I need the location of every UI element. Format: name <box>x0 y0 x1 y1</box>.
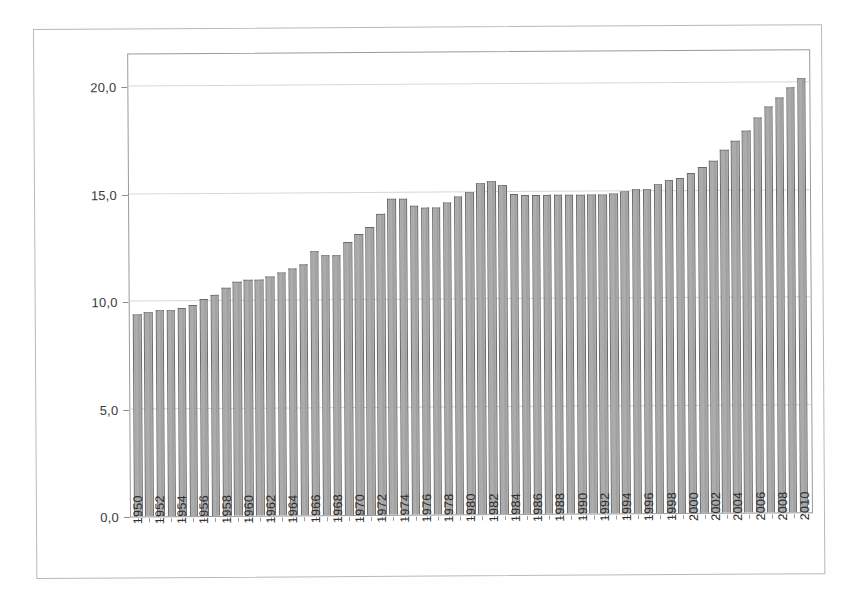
bar[interactable] <box>133 314 143 516</box>
x-axis-slot: 1984 <box>510 516 522 588</box>
x-axis-slot: 1980 <box>466 516 478 588</box>
y-axis-tick-label: 15,0 <box>91 188 117 203</box>
bar[interactable] <box>343 242 353 515</box>
plot-area <box>127 49 813 517</box>
bar[interactable] <box>731 141 742 513</box>
x-axis-tick-mark <box>727 515 728 519</box>
bar[interactable] <box>698 167 709 513</box>
bar[interactable] <box>632 189 642 514</box>
x-axis-slot: 2004 <box>733 515 745 587</box>
x-axis-tick-mark <box>327 517 328 521</box>
x-axis-tick-mark <box>371 517 372 521</box>
bar[interactable] <box>465 192 475 514</box>
bar[interactable] <box>144 312 154 516</box>
bar[interactable] <box>377 214 387 515</box>
bar[interactable] <box>654 184 664 513</box>
x-axis-tick-mark <box>149 518 150 522</box>
x-axis-slot: 2010 <box>799 514 811 586</box>
bar[interactable] <box>487 181 497 514</box>
x-axis-slot: 1954 <box>176 518 188 590</box>
x-axis-slot: 1962 <box>265 518 277 590</box>
x-axis-tick-label: 2010 <box>798 520 812 553</box>
x-axis-tick-mark <box>349 517 350 521</box>
x-axis-tick-mark <box>505 516 506 520</box>
bar[interactable] <box>354 234 364 516</box>
x-axis-slot: 1958 <box>221 518 233 590</box>
bar[interactable] <box>532 195 542 514</box>
x-axis-slot: 2006 <box>755 515 767 587</box>
bar[interactable] <box>510 194 520 514</box>
bar[interactable] <box>609 193 619 513</box>
bar[interactable] <box>233 282 243 516</box>
bar[interactable] <box>676 178 686 513</box>
x-axis-tick-mark <box>282 517 283 521</box>
bar[interactable] <box>177 308 187 516</box>
x-axis-slot: 1970 <box>354 517 366 589</box>
x-axis-tick-mark <box>549 516 550 520</box>
x-axis-tick-mark <box>482 516 483 520</box>
x-axis-slot: 1988 <box>555 516 567 588</box>
bar[interactable] <box>277 273 287 516</box>
x-axis-tick-mark <box>616 515 617 519</box>
bar[interactable] <box>498 185 508 514</box>
bar[interactable] <box>521 195 531 514</box>
x-axis-tick-mark <box>794 514 795 518</box>
bar[interactable] <box>421 207 431 514</box>
x-axis-slot: 1986 <box>532 516 544 588</box>
x-axis-slot: 1976 <box>421 517 433 589</box>
bar[interactable] <box>565 195 575 514</box>
bar[interactable] <box>454 196 464 514</box>
bar[interactable] <box>244 279 254 515</box>
bar[interactable] <box>476 183 486 514</box>
bar[interactable] <box>321 255 331 515</box>
bar-slot <box>796 50 810 512</box>
bar[interactable] <box>155 310 165 516</box>
bar[interactable] <box>709 160 720 512</box>
bar[interactable] <box>443 203 453 515</box>
bar[interactable] <box>299 264 309 515</box>
x-axis-tick-mark <box>304 517 305 521</box>
x-axis-slot: 1952 <box>154 518 166 590</box>
bar[interactable] <box>266 277 276 516</box>
bar[interactable] <box>598 194 608 513</box>
bar[interactable] <box>332 255 342 515</box>
x-axis-tick-mark <box>460 516 461 520</box>
bar[interactable] <box>554 195 564 514</box>
x-axis: 1950195219541956195819601962196419661968… <box>130 514 813 590</box>
bar[interactable] <box>200 299 210 516</box>
bar[interactable] <box>310 251 320 515</box>
bar[interactable] <box>587 194 597 513</box>
bar[interactable] <box>288 268 298 515</box>
figure-outer-frame: 0,05,010,015,020,0 195019521954195619581… <box>33 24 825 579</box>
bar[interactable] <box>410 205 420 514</box>
bar[interactable] <box>366 227 376 515</box>
x-axis-tick-mark <box>527 516 528 520</box>
x-axis-slot: 1964 <box>288 517 300 589</box>
x-axis-tick-mark <box>571 516 572 520</box>
bar[interactable] <box>576 195 586 514</box>
x-axis-tick-mark <box>238 518 239 522</box>
x-axis-tick-mark <box>193 518 194 522</box>
bar[interactable] <box>211 295 221 516</box>
scanned-page-background: 0,05,010,015,020,0 195019521954195619581… <box>0 0 847 609</box>
x-axis-slot: 1998 <box>666 515 678 587</box>
bar[interactable] <box>665 180 675 513</box>
bar[interactable] <box>166 310 176 516</box>
x-axis-slot: 1978 <box>443 516 455 588</box>
bar[interactable] <box>188 305 198 516</box>
bar[interactable] <box>687 173 697 513</box>
bar[interactable] <box>643 189 653 514</box>
bar[interactable] <box>388 199 398 515</box>
bar[interactable] <box>399 199 409 515</box>
bar[interactable] <box>720 150 731 513</box>
bar[interactable] <box>543 195 553 514</box>
x-axis-tick-mark <box>416 517 417 521</box>
bar[interactable] <box>432 207 442 514</box>
bar[interactable] <box>222 288 232 516</box>
bar[interactable] <box>797 78 808 512</box>
bar[interactable] <box>620 191 630 513</box>
y-axis: 0,05,010,015,020,0 <box>80 53 130 517</box>
x-axis-slot: 2008 <box>777 514 789 586</box>
x-axis-tick-mark <box>393 517 394 521</box>
bar[interactable] <box>255 279 265 515</box>
